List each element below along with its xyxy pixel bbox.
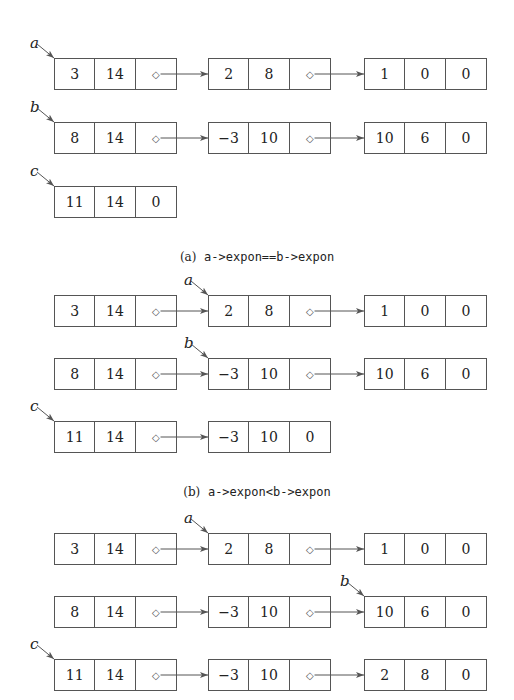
link-cell: 0 [446, 597, 486, 627]
pointer-label-b: b [30, 98, 40, 116]
link-cell: ◇ [136, 123, 176, 153]
link-cell: ◇ [136, 597, 176, 627]
coef-cell: 1 [365, 296, 405, 326]
coef-cell: 2 [209, 296, 249, 326]
expon-cell: 0 [405, 534, 445, 564]
pointer-label-c: c [30, 635, 38, 653]
pointer-arrow-c [37, 407, 54, 421]
list-node-a: 100 [364, 533, 487, 565]
list-node-b: −310◇ [208, 596, 331, 628]
coef-cell: 8 [55, 123, 95, 153]
link-cell: ◇ [290, 123, 330, 153]
coef-cell: 2 [365, 660, 405, 690]
pointer-arrow-a [191, 519, 208, 533]
expon-cell: 6 [405, 597, 445, 627]
link-cell: ◇ [136, 660, 176, 690]
expon-cell: 14 [95, 534, 135, 564]
link-cell: ◇ [136, 59, 176, 89]
pointer-label-c: c [30, 162, 38, 180]
link-cell: ◇ [136, 359, 176, 389]
link-cell: ◇ [290, 296, 330, 326]
coef-cell: 2 [209, 534, 249, 564]
expon-cell: 8 [405, 660, 445, 690]
coef-cell: −3 [209, 359, 249, 389]
expon-cell: 14 [95, 597, 135, 627]
list-node-b: 1060 [364, 596, 487, 628]
expon-cell: 10 [249, 597, 289, 627]
expon-cell: 14 [95, 660, 135, 690]
link-cell: ◇ [290, 534, 330, 564]
expon-cell: 10 [249, 660, 289, 690]
link-cell: ◇ [136, 534, 176, 564]
coef-cell: 3 [55, 59, 95, 89]
coef-cell: 11 [55, 660, 95, 690]
link-cell: ◇ [290, 359, 330, 389]
coef-cell: 1 [365, 534, 405, 564]
coef-cell: 1 [365, 59, 405, 89]
link-cell: 0 [446, 660, 486, 690]
link-cell: ◇ [290, 59, 330, 89]
expon-cell: 8 [249, 534, 289, 564]
list-node-a: 100 [364, 295, 487, 327]
pointer-arrow-a [37, 44, 54, 58]
list-node-b: 1060 [364, 358, 487, 390]
expon-cell: 10 [249, 422, 289, 452]
link-cell: ◇ [136, 296, 176, 326]
subfigure-caption: (b) a->expon<b->expon [0, 485, 514, 499]
expon-cell: 6 [405, 359, 445, 389]
list-node-b: 814◇ [54, 596, 177, 628]
pointer-label-a: a [184, 509, 193, 527]
coef-cell: 10 [365, 123, 405, 153]
coef-cell: 2 [209, 59, 249, 89]
list-node-b: 1060 [364, 122, 487, 154]
expon-cell: 8 [249, 59, 289, 89]
link-cell: 0 [446, 123, 486, 153]
link-cell: ◇ [290, 597, 330, 627]
caption-label: (a) [180, 250, 197, 264]
pointer-arrows-layer [0, 0, 514, 700]
link-cell: 0 [446, 359, 486, 389]
expon-cell: 6 [405, 123, 445, 153]
expon-cell: 14 [95, 123, 135, 153]
list-node-c: 280 [364, 659, 487, 691]
coef-cell: −3 [209, 123, 249, 153]
pointer-label-b: b [340, 572, 350, 590]
expon-cell: 0 [405, 296, 445, 326]
link-cell: 0 [136, 187, 176, 217]
coef-cell: 8 [55, 597, 95, 627]
pointer-arrow-c [37, 172, 54, 186]
pointer-label-a: a [184, 271, 193, 289]
expon-cell: 10 [249, 123, 289, 153]
list-node-c: 1114◇ [54, 421, 177, 453]
coef-cell: 11 [55, 187, 95, 217]
caption-label: (b) [183, 485, 200, 499]
list-node-a: 314◇ [54, 58, 177, 90]
pointer-label-a: a [30, 34, 39, 52]
pointer-label-c: c [30, 397, 38, 415]
list-node-a: 28◇ [208, 295, 331, 327]
pointer-label-b: b [184, 334, 194, 352]
caption-code: a->expon<b->expon [208, 485, 331, 499]
list-node-b: 814◇ [54, 358, 177, 390]
expon-cell: 0 [405, 59, 445, 89]
coef-cell: −3 [209, 422, 249, 452]
subfigure-caption: (a) a->expon==b->expon [0, 250, 514, 264]
link-cell: 0 [446, 534, 486, 564]
expon-cell: 14 [95, 422, 135, 452]
pointer-arrow-c [37, 645, 54, 659]
expon-cell: 14 [95, 187, 135, 217]
list-node-c: −3100 [208, 421, 331, 453]
caption-code: a->expon==b->expon [204, 250, 334, 264]
pointer-arrow-a [191, 281, 208, 295]
expon-cell: 14 [95, 59, 135, 89]
list-node-a: 28◇ [208, 533, 331, 565]
expon-cell: 14 [95, 359, 135, 389]
list-node-c: 11140 [54, 186, 177, 218]
coef-cell: 11 [55, 422, 95, 452]
list-node-b: −310◇ [208, 358, 331, 390]
coef-cell: 3 [55, 296, 95, 326]
list-node-a: 100 [364, 58, 487, 90]
list-node-c: 1114◇ [54, 659, 177, 691]
coef-cell: 3 [55, 534, 95, 564]
link-cell: 0 [446, 59, 486, 89]
